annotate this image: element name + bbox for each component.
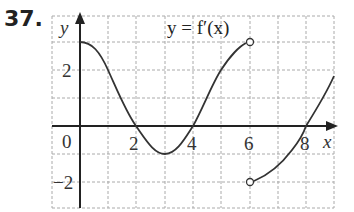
x-tick-8: 8: [300, 133, 310, 154]
x-axis-arrow-icon: [326, 121, 338, 131]
curve-piece-2: [254, 76, 334, 181]
chart: y x y = f′(x) 0 2 4 6 8 2 −2: [0, 0, 354, 212]
y-tick-neg2: −2: [53, 172, 73, 193]
grid: [52, 16, 334, 208]
open-circle-upper: [247, 39, 254, 46]
x-tick-2: 2: [129, 133, 139, 154]
y-axis-arrow-icon: [75, 12, 85, 24]
x-tick-4: 4: [187, 133, 197, 154]
y-axis-label: y: [58, 17, 69, 38]
y-tick-2: 2: [62, 60, 72, 81]
open-circle-lower: [247, 179, 254, 186]
chart-title: y = f′(x): [167, 17, 229, 39]
x-tick-0: 0: [62, 131, 72, 152]
x-tick-6: 6: [244, 133, 254, 154]
x-axis-label: x: [322, 131, 332, 152]
